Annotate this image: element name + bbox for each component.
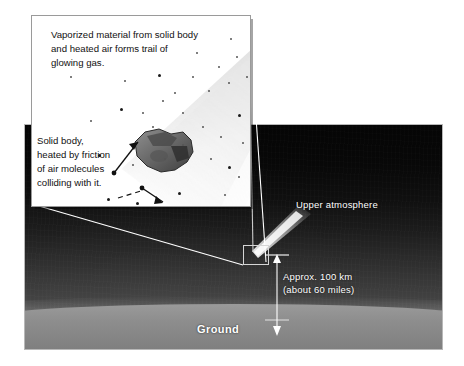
altitude-label: Approx. 100 km (about 60 miles) <box>283 270 354 296</box>
dashed-molecule-path <box>118 190 144 198</box>
molecule-dot <box>192 76 194 78</box>
ground-label: Ground <box>197 323 239 335</box>
molecule-dot <box>202 126 204 128</box>
molecule-dot <box>230 38 232 40</box>
molecule-dot <box>238 176 240 178</box>
molecule-dot <box>236 56 238 58</box>
molecule-dot <box>246 76 248 78</box>
molecule-dot <box>162 100 164 102</box>
molecule-dot <box>228 166 231 169</box>
molecule-dot <box>218 66 220 68</box>
molecule-dot <box>182 144 184 146</box>
magnification-callout-box[interactable] <box>243 245 269 265</box>
molecule-dot <box>208 90 210 92</box>
molecule-dot <box>220 136 222 138</box>
molecule-dot <box>142 112 144 114</box>
molecule-dot <box>70 76 72 78</box>
molecule-dot <box>238 114 241 117</box>
molecule-dot <box>124 80 126 82</box>
magnified-inset-panel: Vaporized material from solid body and h… <box>31 15 251 207</box>
molecule-dot <box>90 120 92 122</box>
inset-caption-left: Solid body, heated by friction of air mo… <box>37 134 137 190</box>
inset-caption-top: Vaporized material from solid body and h… <box>51 28 231 70</box>
molecule-dot <box>178 192 181 195</box>
molecule-dot <box>196 52 198 54</box>
molecule-dot <box>224 194 226 196</box>
molecule-dot <box>98 154 101 157</box>
molecule-dot <box>164 158 166 160</box>
molecule-dot <box>120 108 123 111</box>
molecule-dot <box>136 202 139 205</box>
molecule-dot <box>242 142 244 144</box>
molecule-dot <box>132 164 134 166</box>
molecule-dot <box>182 112 184 114</box>
molecule-dot <box>107 198 110 201</box>
molecule-dot-2 <box>140 186 145 191</box>
molecule-dot <box>152 126 154 128</box>
molecule-dot <box>158 74 161 77</box>
molecule-dot <box>210 158 212 160</box>
molecule-dot <box>228 82 230 84</box>
upper-atmosphere-label: Upper atmosphere <box>296 199 378 210</box>
molecule-dot <box>174 92 176 94</box>
solid-body-rock <box>127 126 203 182</box>
molecule-dot <box>200 206 203 207</box>
